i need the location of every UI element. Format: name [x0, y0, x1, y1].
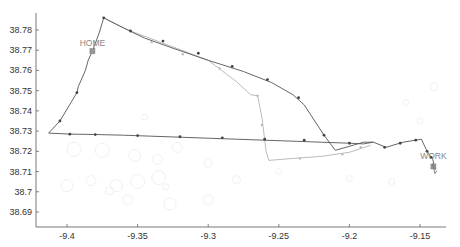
background-circle — [61, 180, 73, 192]
route-point — [136, 134, 139, 137]
x-tick-label: -9.35 — [127, 231, 148, 241]
route-point — [221, 136, 224, 139]
route-point — [179, 135, 182, 138]
x-tick-label: -9.15 — [410, 231, 431, 241]
route-point — [162, 40, 165, 43]
y-tick-label: 38.74 — [9, 106, 32, 116]
route-markers — [59, 16, 433, 159]
route-point — [129, 30, 132, 33]
y-tick-label: 38.78 — [9, 25, 32, 35]
route-point — [94, 133, 97, 136]
route-point-light — [299, 157, 301, 159]
route-point — [68, 133, 71, 136]
y-tick-label: 38.76 — [9, 65, 32, 75]
route-point-light — [261, 124, 263, 126]
background-circle — [152, 154, 162, 164]
home-label: HOME — [80, 38, 106, 48]
background-circle — [430, 83, 438, 91]
series-route-dark — [49, 51, 436, 169]
background-circle — [142, 114, 148, 120]
x-ticks: -9.4-9.35-9.3-9.25-9.2-9.15 — [59, 224, 430, 241]
background-circle — [346, 176, 352, 182]
route-point-light — [182, 53, 184, 55]
route-point-light — [341, 153, 343, 155]
y-tick-label: 38.72 — [9, 146, 32, 156]
work-label: WORK — [420, 151, 447, 161]
background-circle — [110, 180, 122, 192]
annotations: HOMEWORK — [80, 38, 447, 161]
y-tick-label: 38.69 — [9, 207, 32, 217]
background-circle — [152, 171, 166, 185]
series-route-dark-north — [92, 18, 373, 150]
background-circle — [67, 142, 81, 156]
background-circle — [172, 142, 182, 152]
background-circles — [61, 83, 438, 210]
route-point — [303, 139, 306, 142]
x-tick-label: -9.3 — [200, 231, 216, 241]
place-markers — [90, 49, 437, 174]
route-point — [414, 139, 417, 142]
route-point — [75, 91, 78, 94]
route-point — [231, 65, 234, 68]
background-circle — [276, 169, 282, 175]
chart: 38.6938.738.7138.7238.7338.7438.7538.763… — [0, 0, 460, 247]
y-tick-label: 38.71 — [9, 167, 32, 177]
route-point — [323, 134, 326, 137]
route-point — [102, 16, 105, 19]
background-circle — [164, 198, 176, 210]
x-tick-label: -9.2 — [342, 231, 358, 241]
home-marker-icon — [90, 49, 95, 54]
y-tick-label: 38.7 — [14, 187, 32, 197]
y-tick-label: 38.73 — [9, 126, 32, 136]
route-point — [383, 146, 386, 149]
route-point — [266, 78, 269, 81]
route-point — [297, 96, 300, 99]
route-point — [59, 120, 62, 123]
background-circle — [86, 176, 96, 186]
background-circle — [163, 184, 169, 190]
background-circle — [403, 100, 409, 106]
background-circle — [417, 118, 423, 124]
background-circle — [129, 149, 141, 161]
route-point-light — [151, 41, 153, 43]
background-circle — [95, 143, 109, 157]
background-circle — [105, 187, 113, 195]
y-tick-label: 38.77 — [9, 45, 32, 55]
route-point-light — [359, 146, 361, 148]
route-point-light — [218, 67, 220, 69]
x-tick-label: -9.4 — [59, 231, 75, 241]
route-point — [348, 142, 351, 145]
y-tick-label: 38.75 — [9, 86, 32, 96]
route-point — [399, 142, 402, 145]
background-circle — [389, 179, 395, 185]
background-circle — [203, 195, 213, 205]
background-circle — [232, 176, 240, 184]
route-point — [197, 52, 200, 55]
route-point-light — [256, 95, 258, 97]
y-ticks: 38.6938.738.7138.7238.7338.7438.7538.763… — [9, 25, 39, 217]
x-tick-label: -9.25 — [269, 231, 290, 241]
background-circle — [131, 175, 145, 189]
route-point — [263, 138, 266, 141]
background-circle — [123, 195, 133, 205]
background-circle — [204, 159, 212, 167]
route-lines — [49, 18, 436, 170]
